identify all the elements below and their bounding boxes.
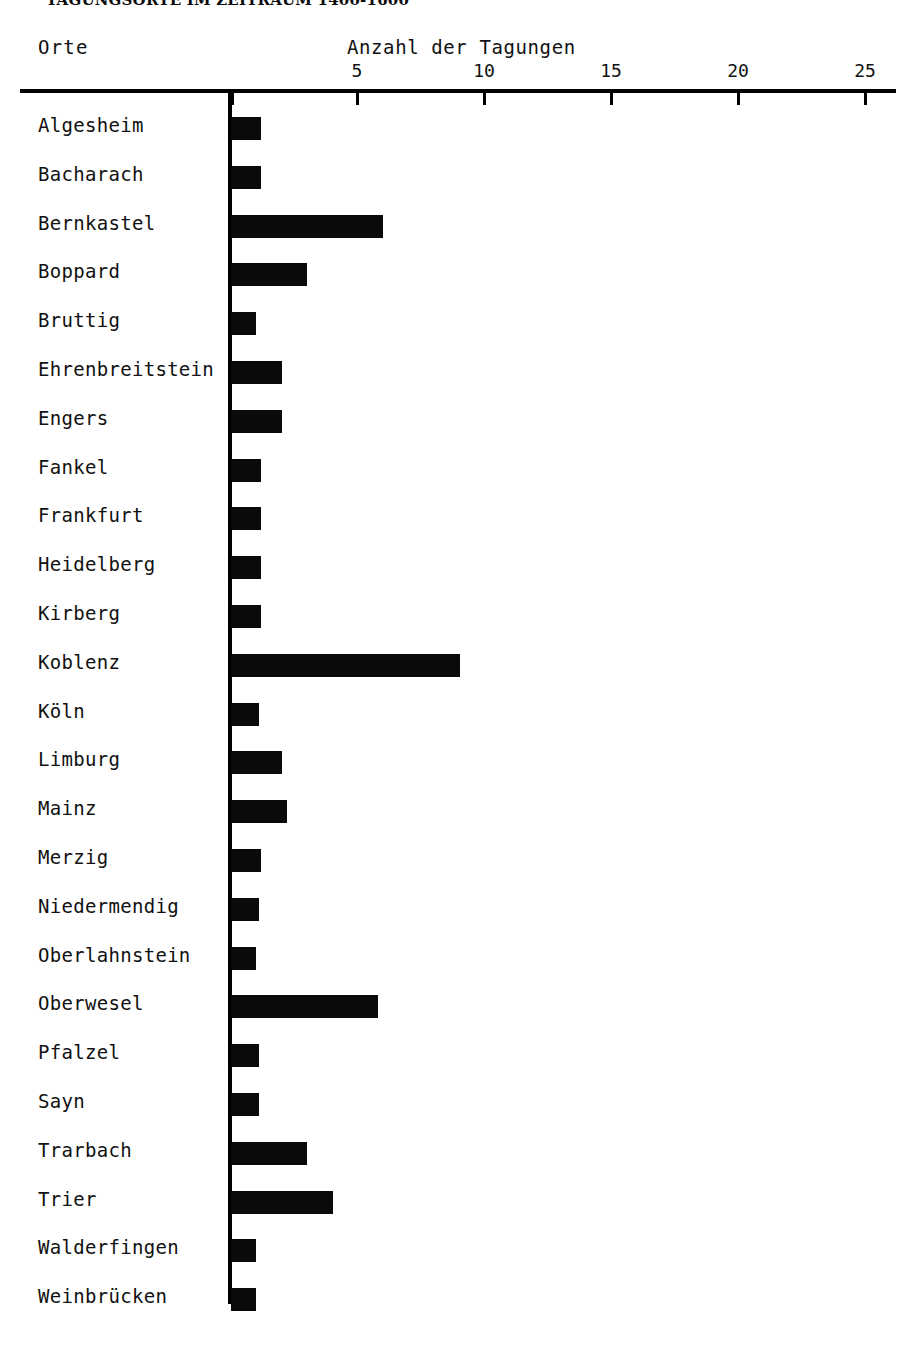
bar-row: Bacharach xyxy=(0,153,924,202)
category-label: Kirberg xyxy=(38,602,120,624)
plot-area: 510152025 AlgesheimBacharachBernkastelBo… xyxy=(0,0,924,1357)
bar xyxy=(231,361,282,384)
category-label: Heidelberg xyxy=(38,553,155,575)
bar xyxy=(231,751,282,774)
bar xyxy=(231,166,261,189)
category-label: Koblenz xyxy=(38,651,120,673)
bar-row: Sayn xyxy=(0,1080,924,1129)
bar xyxy=(231,605,261,628)
bar xyxy=(231,849,261,872)
bar xyxy=(231,898,259,921)
bar-row: Kirberg xyxy=(0,592,924,641)
category-label: Fankel xyxy=(38,456,108,478)
category-label: Köln xyxy=(38,700,85,722)
bar-row: Koblenz xyxy=(0,641,924,690)
x-tick-label: 25 xyxy=(854,60,876,81)
bar-row: Weinbrücken xyxy=(0,1275,924,1324)
bar xyxy=(231,703,259,726)
category-label: Oberwesel xyxy=(38,992,144,1014)
bar xyxy=(231,1191,333,1214)
bar-row: Mainz xyxy=(0,787,924,836)
bar-row: Köln xyxy=(0,690,924,739)
x-tick-label: 20 xyxy=(727,60,749,81)
bar-row: Walderfingen xyxy=(0,1226,924,1275)
bar xyxy=(231,312,256,335)
category-label: Merzig xyxy=(38,846,108,868)
bar xyxy=(231,800,287,823)
category-label: Sayn xyxy=(38,1090,85,1112)
category-label: Ehrenbreitstein xyxy=(38,358,214,380)
bar-row: Pfalzel xyxy=(0,1031,924,1080)
category-label: Weinbrücken xyxy=(38,1285,167,1307)
category-label: Engers xyxy=(38,407,108,429)
category-label: Bacharach xyxy=(38,163,144,185)
category-label: Algesheim xyxy=(38,114,144,136)
category-label: Bernkastel xyxy=(38,212,155,234)
x-tick-label: 15 xyxy=(600,60,622,81)
category-label: Boppard xyxy=(38,260,120,282)
bar-row: Ehrenbreitstein xyxy=(0,348,924,397)
bar xyxy=(231,1288,256,1311)
bar-row: Trarbach xyxy=(0,1129,924,1178)
bar-row: Bernkastel xyxy=(0,202,924,251)
bar xyxy=(231,117,261,140)
bar xyxy=(231,459,261,482)
bar-row: Niedermendig xyxy=(0,885,924,934)
bar-row: Limburg xyxy=(0,738,924,787)
bar-row: Frankfurt xyxy=(0,494,924,543)
bar-row: Boppard xyxy=(0,250,924,299)
category-label: Bruttig xyxy=(38,309,120,331)
category-label: Trarbach xyxy=(38,1139,132,1161)
bar-row: Fankel xyxy=(0,446,924,495)
bar-row: Engers xyxy=(0,397,924,446)
bar xyxy=(231,995,378,1018)
category-label: Frankfurt xyxy=(38,504,144,526)
chart-page: TAGUNGSORTE IM ZEITRAUM 1400-1600 Orte A… xyxy=(0,0,924,1357)
bar xyxy=(231,263,307,286)
category-label: Walderfingen xyxy=(38,1236,179,1258)
bar xyxy=(231,507,261,530)
bar-row: Oberwesel xyxy=(0,982,924,1031)
bar xyxy=(231,215,383,238)
bar-row: Bruttig xyxy=(0,299,924,348)
category-label: Trier xyxy=(38,1188,97,1210)
bar-row: Oberlahnstein xyxy=(0,934,924,983)
bar xyxy=(231,1142,307,1165)
category-label: Oberlahnstein xyxy=(38,944,191,966)
category-label: Pfalzel xyxy=(38,1041,120,1063)
category-label: Niedermendig xyxy=(38,895,179,917)
bar xyxy=(231,556,261,579)
bar-row: Heidelberg xyxy=(0,543,924,592)
bar xyxy=(231,1044,259,1067)
x-tick-label: 5 xyxy=(352,60,363,81)
x-tick-label: 10 xyxy=(473,60,495,81)
category-label: Limburg xyxy=(38,748,120,770)
bar xyxy=(231,1093,259,1116)
bar xyxy=(231,1239,256,1262)
bar xyxy=(231,947,256,970)
bar-row: Trier xyxy=(0,1178,924,1227)
bar-row: Merzig xyxy=(0,836,924,885)
x-axis-line xyxy=(20,89,896,93)
bar-row: Algesheim xyxy=(0,104,924,153)
bar xyxy=(231,654,460,677)
category-label: Mainz xyxy=(38,797,97,819)
bar xyxy=(231,410,282,433)
